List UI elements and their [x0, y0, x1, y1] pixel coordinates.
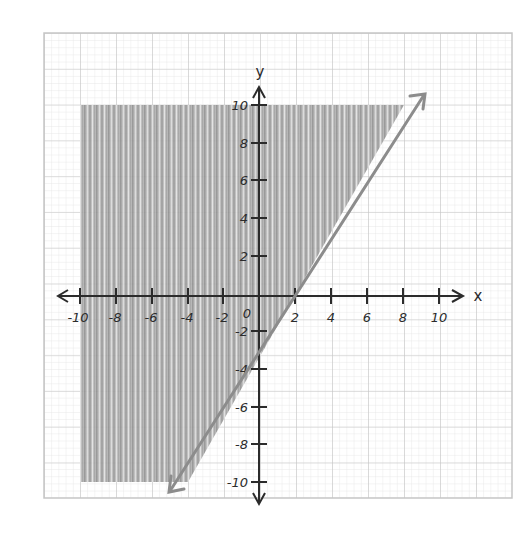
x-tick-label: 2: [291, 310, 299, 325]
y-tick-label: -10: [227, 475, 248, 490]
x-tick-label: 8: [399, 310, 407, 325]
x-tick-label: -6: [145, 310, 158, 325]
y-tick-label: 2: [240, 249, 248, 264]
x-tick-label: 10: [431, 310, 448, 325]
y-axis-label: y: [256, 63, 265, 81]
y-tick-label: -2: [235, 324, 248, 339]
origin-label: 0: [243, 306, 251, 321]
x-tick-label: -10: [67, 310, 88, 325]
y-tick-label: -8: [235, 437, 248, 452]
x-tick-label: -8: [109, 310, 122, 325]
y-tick-label: 10: [231, 98, 248, 113]
y-tick-label: 4: [240, 211, 248, 226]
x-tick-label: -4: [181, 310, 194, 325]
x-tick-label: 6: [363, 310, 371, 325]
y-tick-label: 6: [240, 173, 248, 188]
y-tick-label: -6: [235, 400, 248, 415]
x-tick-label: -2: [216, 310, 229, 325]
y-tick-label: 8: [240, 136, 248, 151]
x-tick-label: 4: [327, 310, 335, 325]
x-axis-label: x: [474, 287, 483, 305]
inequality-graph: -10 -8 -6 -4 -2 0 2 4 6 8 10 -10 -8 -6 -…: [0, 0, 525, 547]
